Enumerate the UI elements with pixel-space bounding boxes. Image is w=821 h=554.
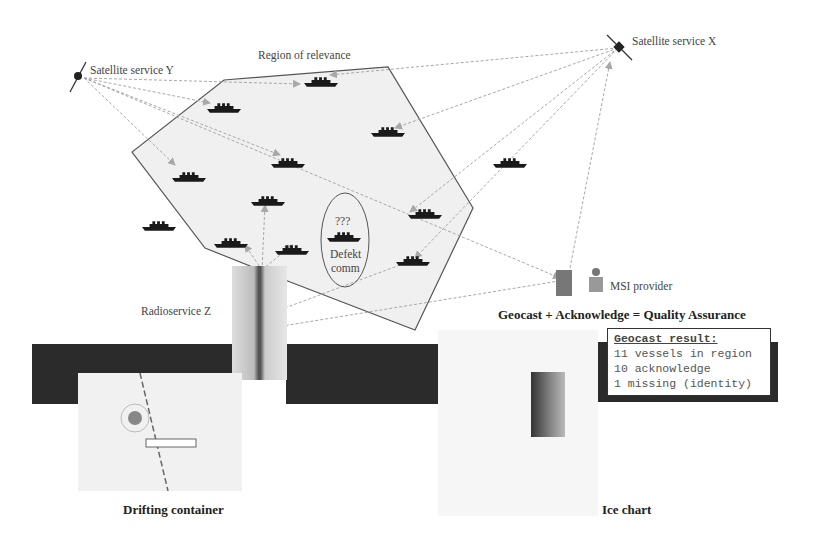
defekt-l2: comm <box>331 262 360 274</box>
drifting-container-caption: Drifting container <box>123 502 224 518</box>
headline: Geocast + Acknowledge = Quality Assuranc… <box>498 307 746 323</box>
ice-chart-image <box>438 330 598 516</box>
defekt-l1: Defekt <box>330 248 361 260</box>
satellite-x-icon <box>607 35 632 60</box>
region-label: Region of relevance <box>258 49 351 61</box>
defekt-q: ??? <box>335 215 350 227</box>
result-line: 10 acknowledge <box>614 361 770 376</box>
result-title: Geocast result: <box>614 331 770 346</box>
geocast-result-box: Geocast result: 11 vessels in region 10 … <box>607 328 771 396</box>
person-icon <box>589 268 603 292</box>
result-line: 11 vessels in region <box>614 346 770 361</box>
drifting-container-image <box>78 373 242 491</box>
radioservice-label: Radioservice Z <box>141 305 211 317</box>
satellite-x-label: Satellite service X <box>632 35 716 47</box>
region-of-relevance <box>132 67 473 330</box>
msi-provider-label: MSI provider <box>610 280 672 292</box>
server-icon <box>556 270 572 296</box>
result-line: 1 missing (identity) <box>614 376 770 391</box>
satellite-y-icon <box>70 62 86 92</box>
dark-band-mid <box>286 344 439 404</box>
ice-chart-caption: Ice chart <box>602 502 651 518</box>
satellite-y-label: Satellite service Y <box>90 64 174 76</box>
radio-tower-image <box>232 266 287 380</box>
